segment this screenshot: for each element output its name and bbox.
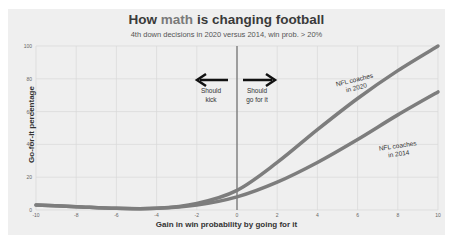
y-tick-label: 100 [24,43,33,49]
y-axis-label: Go-for-it percentage [27,80,36,170]
x-tick-label: -2 [195,212,200,218]
x-axis-label: Gain in win probability by going for it [0,220,453,229]
x-tick-label: -10 [32,212,39,218]
x-tick-label: 4 [316,212,319,218]
x-tick-label: -8 [74,212,79,218]
x-tick-label: 10 [435,212,441,218]
annotation-should-go: go for it [246,96,268,104]
annotation-should-kick: Should [201,87,222,94]
annotation-2014: NFL coachesin 2014 [378,139,419,159]
y-tick-label: 20 [26,174,32,180]
x-tick-label: 6 [356,212,359,218]
annotation-2020: NFL coachesin 2020 [335,71,376,95]
x-tick-label: -4 [154,212,159,218]
plot-area: -10-8-6-4-20246810020406080100Shouldkick… [0,0,453,242]
x-tick-label: 2 [276,212,279,218]
annotation-should-go: Should [247,87,268,94]
annotation-should-kick: kick [205,96,217,103]
x-tick-label: 0 [236,212,239,218]
x-tick-label: 8 [396,212,399,218]
y-tick-label: 0 [29,207,32,213]
x-tick-label: -6 [114,212,119,218]
